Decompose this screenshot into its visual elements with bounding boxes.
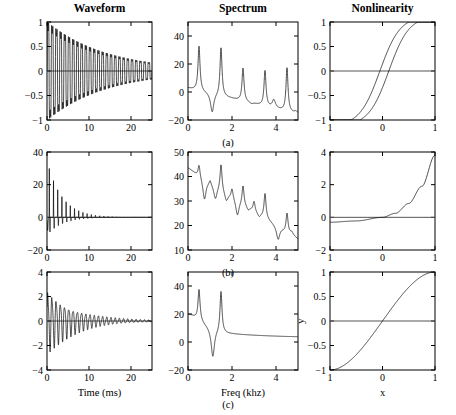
y-tick-label: 0 bbox=[321, 66, 326, 77]
x-tick-label: 0 bbox=[186, 252, 191, 263]
data-curve bbox=[188, 46, 298, 112]
y-tick-label: 20 bbox=[174, 220, 184, 231]
x-tick-label: 0 bbox=[186, 372, 191, 383]
x-tick-label: 1 bbox=[328, 372, 333, 383]
y-tick-label: 1 bbox=[38, 17, 43, 28]
y-tick-label: 10 bbox=[174, 245, 184, 256]
data-curve bbox=[47, 22, 152, 118]
panel-nonlinearity-c: 101−1−0.500.51xy bbox=[295, 267, 438, 399]
panel-waveform-b: 01020−2002040 bbox=[27, 147, 152, 264]
y-tick-label: 0 bbox=[38, 212, 43, 223]
y-tick-label: −1 bbox=[315, 365, 326, 376]
x-tick-label: 4 bbox=[274, 372, 279, 383]
y-tick-label: 40 bbox=[33, 147, 43, 158]
y-tick-label: −20 bbox=[27, 245, 43, 256]
panel-spectrum-b: 0241020304050 bbox=[174, 147, 298, 264]
y-tick-label: 0 bbox=[38, 66, 43, 77]
x-tick-label: 0 bbox=[380, 122, 385, 133]
y-tick-label: 40 bbox=[174, 281, 184, 292]
x-axis-label: Freq (khz) bbox=[221, 387, 266, 399]
y-tick-label: 30 bbox=[174, 196, 184, 207]
y-tick-label: −0.5 bbox=[25, 90, 43, 101]
plot-frame bbox=[188, 22, 298, 120]
x-axis-label: Time (ms) bbox=[78, 387, 122, 399]
y-tick-label: −1 bbox=[315, 115, 326, 126]
y-tick-label: 50 bbox=[174, 147, 184, 158]
y-tick-label: 0 bbox=[38, 316, 43, 327]
y-tick-label: 0.5 bbox=[314, 41, 327, 52]
x-tick-label: 1 bbox=[328, 252, 333, 263]
y-tick-label: 0 bbox=[321, 316, 326, 327]
row-label-c: (c) bbox=[222, 399, 234, 411]
column-title-waveform: Waveform bbox=[74, 2, 126, 14]
plot-frame bbox=[330, 152, 435, 250]
y-tick-label: 2 bbox=[38, 291, 43, 302]
y-tick-label: 1 bbox=[321, 267, 326, 278]
x-axis-label: x bbox=[380, 387, 386, 398]
column-title-spectrum: Spectrum bbox=[219, 2, 267, 15]
y-tick-label: 20 bbox=[33, 179, 43, 190]
y-tick-label: −2 bbox=[32, 340, 43, 351]
y-tick-label: 20 bbox=[174, 59, 184, 70]
y-tick-label: −2 bbox=[315, 245, 326, 256]
row-label-b: (b) bbox=[222, 267, 235, 279]
y-tick-label: 4 bbox=[321, 147, 326, 158]
panel-waveform-a: 01020−1−0.500.51 bbox=[25, 17, 152, 134]
row-label-a: (a) bbox=[222, 137, 234, 149]
column-title-nonlinearity: Nonlinearity bbox=[352, 2, 414, 15]
x-tick-label: 2 bbox=[230, 122, 235, 133]
x-tick-label: 10 bbox=[84, 372, 94, 383]
data-curve bbox=[330, 155, 435, 222]
x-tick-label: 4 bbox=[274, 122, 279, 133]
y-tick-label: −20 bbox=[168, 365, 184, 376]
x-tick-label: 0 bbox=[45, 372, 50, 383]
y-tick-label: −20 bbox=[168, 115, 184, 126]
x-tick-label: 0 bbox=[380, 252, 385, 263]
x-tick-label: 2 bbox=[230, 252, 235, 263]
panel-spectrum-a: 024−2002040 bbox=[168, 22, 298, 133]
y-tick-label: 0 bbox=[321, 212, 326, 223]
y-tick-label: 40 bbox=[174, 171, 184, 182]
y-tick-label: 0.5 bbox=[31, 41, 44, 52]
plot-frame bbox=[47, 152, 152, 250]
x-tick-label: 1 bbox=[433, 372, 438, 383]
data-curve bbox=[188, 165, 298, 239]
y-tick-label: 0 bbox=[179, 87, 184, 98]
y-tick-label: −4 bbox=[32, 365, 43, 376]
panel-nonlinearity-a: 101−1−0.500.51 bbox=[308, 17, 438, 134]
y-tick-label: −0.5 bbox=[308, 340, 326, 351]
y-tick-label: −1 bbox=[32, 115, 43, 126]
x-tick-label: 4 bbox=[274, 252, 279, 263]
panel-spectrum-c: 024−2002040Freq (khz) bbox=[168, 272, 298, 399]
y-tick-label: 1 bbox=[321, 17, 326, 28]
plot-frame bbox=[188, 152, 298, 250]
y-tick-label: 40 bbox=[174, 31, 184, 42]
y-tick-label: 0 bbox=[179, 337, 184, 348]
y-tick-label: 0.5 bbox=[314, 291, 327, 302]
data-curve bbox=[47, 169, 152, 233]
x-tick-label: 20 bbox=[126, 252, 136, 263]
data-curve bbox=[188, 289, 298, 356]
y-tick-label: −0.5 bbox=[308, 90, 326, 101]
x-tick-label: 0 bbox=[186, 122, 191, 133]
y-tick-label: 2 bbox=[321, 179, 326, 190]
x-tick-label: 0 bbox=[380, 372, 385, 383]
x-tick-label: 2 bbox=[230, 372, 235, 383]
x-tick-label: 1 bbox=[328, 122, 333, 133]
x-tick-label: 20 bbox=[126, 372, 136, 383]
plot-frame bbox=[188, 272, 298, 370]
x-tick-label: 0 bbox=[45, 252, 50, 263]
figure-panel-grid: WaveformSpectrumNonlinearity01020−1−0.50… bbox=[0, 0, 456, 415]
y-axis-label: y bbox=[295, 318, 306, 324]
x-tick-label: 20 bbox=[126, 122, 136, 133]
panel-nonlinearity-b: 101−2024 bbox=[315, 147, 437, 264]
panel-waveform-c: 01020−4−2024Time (ms) bbox=[32, 267, 152, 400]
x-tick-label: 1 bbox=[433, 252, 438, 263]
data-curve bbox=[47, 293, 152, 352]
x-tick-label: 10 bbox=[84, 122, 94, 133]
x-tick-label: 1 bbox=[433, 122, 438, 133]
y-tick-label: 4 bbox=[38, 267, 43, 278]
x-tick-label: 10 bbox=[84, 252, 94, 263]
y-tick-label: 20 bbox=[174, 309, 184, 320]
x-tick-label: 0 bbox=[45, 122, 50, 133]
